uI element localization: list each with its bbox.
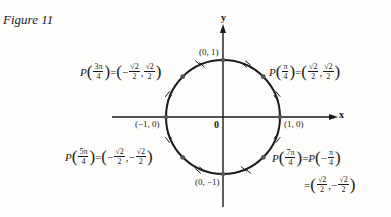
origin-label: 0 bbox=[214, 119, 219, 130]
point-label-7pi-4: P( 7π4 )= P( − π4 ) bbox=[272, 148, 341, 167]
point-label-pi-4: P( π4 )=( √22 , √22 ) bbox=[269, 62, 340, 81]
y-arrow-icon bbox=[220, 24, 226, 33]
x-arrow-icon bbox=[329, 114, 338, 120]
x-axis-label: x bbox=[339, 109, 344, 120]
y-axis-label: y bbox=[221, 12, 226, 23]
point-label-5pi-4: P( 5π4 )=( − √22 , − √22 ) bbox=[65, 147, 153, 166]
intercept-right: (1, 0) bbox=[284, 119, 304, 129]
intercept-left: (−1, 0) bbox=[135, 119, 160, 129]
point-label-3pi-4: P( 3π4 )=( − √22 , √22 ) bbox=[80, 62, 161, 81]
intercept-bottom: (0, −1) bbox=[195, 177, 220, 187]
point-label-7pi-4-value: =( √22 , − √22 ) bbox=[304, 175, 355, 194]
intercept-top: (0, 1) bbox=[199, 47, 219, 57]
